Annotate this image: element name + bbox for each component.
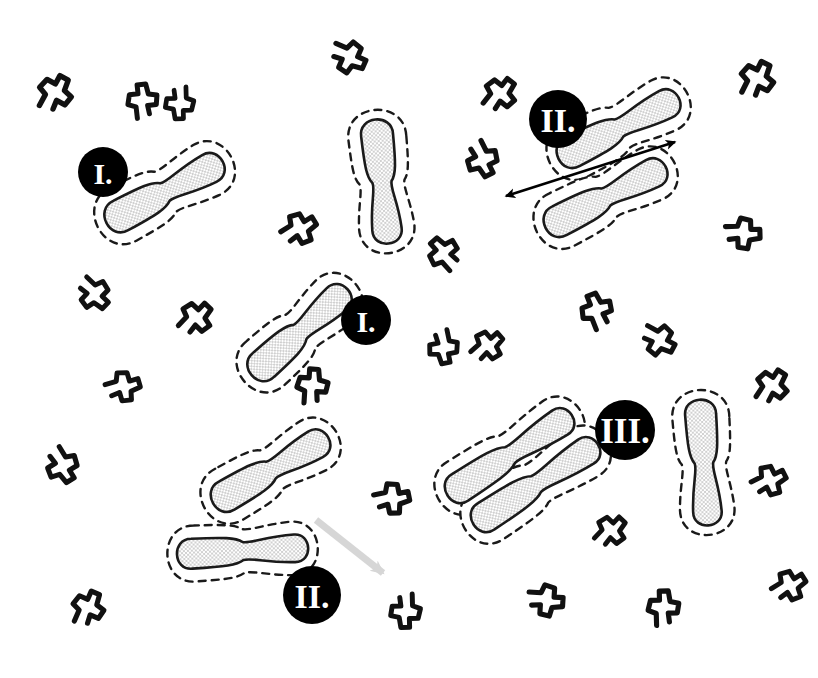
badge-label: I. xyxy=(93,157,112,190)
badge-label: II. xyxy=(295,578,330,615)
badge-label: II. xyxy=(541,102,576,139)
diagram-scene: I.I.II.II.III. xyxy=(0,0,818,678)
figure-canvas: I.I.II.II.III. xyxy=(0,0,818,678)
badge-label: III. xyxy=(600,412,650,451)
badge-label: I. xyxy=(356,305,375,338)
badge-stage-2-lower-left[interactable]: II. xyxy=(283,566,341,624)
aggregation-schematic-svg: I.I.II.II.III. xyxy=(0,0,818,678)
badge-stage-3-lower-right[interactable]: III. xyxy=(595,400,655,460)
badge-stage-2-upper-right[interactable]: II. xyxy=(529,90,587,148)
badge-stage-1-middle[interactable]: I. xyxy=(341,295,391,345)
badge-stage-1-upper-left[interactable]: I. xyxy=(78,147,128,197)
background xyxy=(0,0,818,678)
